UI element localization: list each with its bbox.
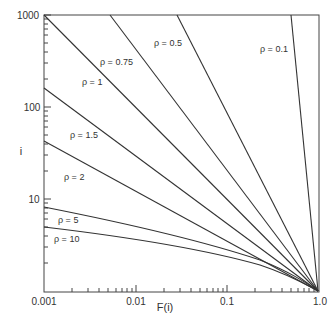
x-tick-0.1: 0.1 [220, 296, 234, 307]
chart-canvas: 1000 100 10 0.001 0.01 0.1 1.0 F(i) i ρ … [0, 0, 336, 326]
curve-rho-1.5 [44, 88, 318, 291]
y-tick-100: 100 [24, 102, 41, 113]
label-rho-1.5: ρ = 1.5 [70, 130, 98, 140]
x-tick-1.0: 1.0 [313, 296, 327, 307]
x-axis-title: F(i) [157, 301, 174, 313]
y-axis-title: i [20, 145, 22, 157]
curve-rho-0.1 [291, 15, 318, 291]
y-tick-10: 10 [28, 194, 40, 205]
label-rho-1: ρ = 1 [82, 77, 102, 87]
y-axis-ticks [44, 15, 51, 263]
curve-rho-1 [44, 15, 318, 291]
y-tick-1000: 1000 [17, 10, 40, 21]
label-rho-0.5: ρ = 0.5 [154, 38, 182, 48]
x-axis-ticks [72, 285, 314, 292]
label-rho-10: ρ = 10 [54, 234, 79, 244]
x-tick-0.01: 0.01 [126, 296, 146, 307]
label-rho-0.75: ρ = 0.75 [100, 57, 133, 67]
label-rho-0.1: ρ = 0.1 [260, 44, 288, 54]
curve-rho-0.75 [110, 15, 318, 291]
curve-rho-2 [44, 141, 318, 291]
label-rho-5: ρ = 5 [58, 215, 78, 225]
x-tick-0.001: 0.001 [31, 296, 56, 307]
label-rho-2: ρ = 2 [64, 172, 84, 182]
curve-rho-0.5 [177, 15, 318, 291]
curves [44, 15, 318, 291]
